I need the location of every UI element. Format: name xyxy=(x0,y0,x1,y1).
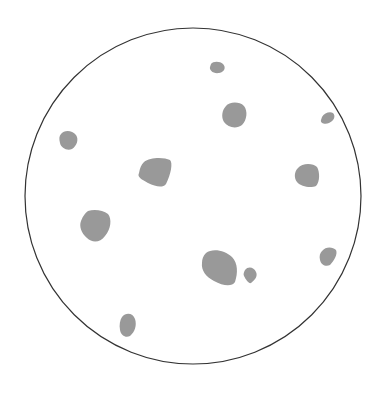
particle-medium-top-right xyxy=(222,103,246,128)
background xyxy=(0,0,382,396)
diagram-canvas xyxy=(0,0,382,396)
particle-field-diagram xyxy=(0,0,382,396)
